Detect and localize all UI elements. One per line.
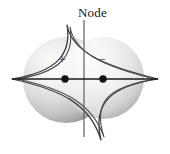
positive-phase-label: + <box>59 54 66 66</box>
orbital-diagram-svg <box>0 0 170 154</box>
right-nucleus-dot <box>99 75 106 82</box>
negative-phase-label: − <box>99 53 106 65</box>
node-label: Node <box>78 6 107 19</box>
orbital-figure: Node + − <box>0 0 170 154</box>
left-nucleus-dot <box>61 75 68 82</box>
